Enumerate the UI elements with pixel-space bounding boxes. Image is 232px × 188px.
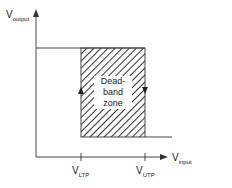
- utp-label: VUTP: [136, 166, 155, 180]
- zone-label-line: band: [94, 87, 132, 98]
- zone-label-line: zone: [94, 98, 132, 109]
- x-axis-label: Vinput: [172, 153, 192, 167]
- hysteresis-diagram: Voutput Vinput VLTP VUTP Dead- band zone: [0, 0, 232, 188]
- dead-band-zone-label: Dead- band zone: [94, 76, 132, 109]
- y-axis-label: Voutput: [6, 10, 29, 24]
- y-axis-arrow-icon: [33, 9, 39, 17]
- x-axis-arrow-icon: [160, 154, 168, 160]
- ltp-label: VLTP: [72, 166, 89, 180]
- zone-label-line: Dead-: [94, 76, 132, 87]
